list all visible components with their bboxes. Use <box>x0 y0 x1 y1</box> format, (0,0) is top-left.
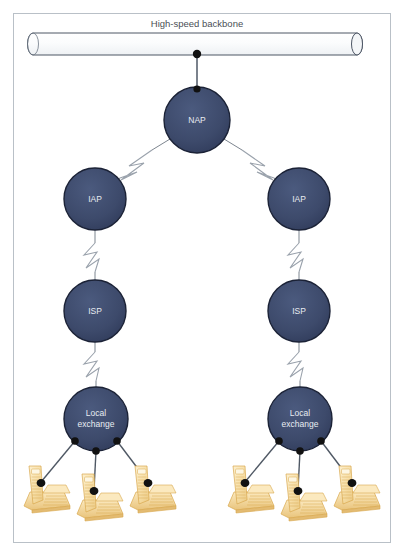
dot-nap-top <box>193 85 200 92</box>
node-nap[interactable]: NAP <box>164 87 230 153</box>
node-iap-right[interactable]: IAP <box>268 168 330 230</box>
node-local-exchange-left-label-line2: exchange <box>78 419 115 429</box>
node-isp-right-label: ISP <box>292 306 306 316</box>
phone-right-1 <box>228 466 274 513</box>
node-local-exchange-right-label-line2: exchange <box>282 419 319 429</box>
dot-phone-left-3 <box>144 479 153 487</box>
backbone-title: High-speed backbone <box>151 18 243 29</box>
dot-lex-left-b <box>92 447 100 455</box>
dot-phone-right-2 <box>294 487 303 495</box>
network-topology-svg: NAP IAP IAP ISP ISP Local exchange Local… <box>0 0 406 554</box>
dot-lex-left-c <box>113 437 121 445</box>
dot-lex-right-b <box>296 447 304 455</box>
node-iap-left-label: IAP <box>88 194 102 204</box>
node-iap-right-label: IAP <box>292 194 306 204</box>
node-local-exchange-left-label-line1: Local <box>86 408 106 418</box>
dot-lex-right-c <box>317 437 325 445</box>
phone-right-3 <box>334 466 380 513</box>
dot-phone-left-2 <box>90 487 99 495</box>
dot-backbone-tap <box>193 50 201 58</box>
dot-lex-right-a <box>275 437 283 445</box>
node-nap-label: NAP <box>188 115 206 125</box>
dot-phone-right-1 <box>241 479 250 487</box>
node-isp-right[interactable]: ISP <box>268 280 330 342</box>
phone-left-2 <box>77 474 123 521</box>
dot-phone-left-1 <box>37 479 46 487</box>
link-iap-isp-left <box>84 230 99 280</box>
link-isp-localexchange-right <box>288 342 303 388</box>
node-isp-left-label: ISP <box>88 306 102 316</box>
link-isp-localexchange-left <box>84 342 99 388</box>
phone-left-3 <box>130 466 176 513</box>
phone-left-1 <box>24 466 70 513</box>
link-iap-isp-right <box>288 230 303 280</box>
phone-right-2 <box>281 474 327 521</box>
dot-lex-left-a <box>71 437 79 445</box>
diagram-canvas: NAP IAP IAP ISP ISP Local exchange Local… <box>0 0 406 554</box>
node-local-exchange-right-label-line1: Local <box>290 408 310 418</box>
node-iap-left[interactable]: IAP <box>64 168 126 230</box>
node-isp-left[interactable]: ISP <box>64 280 126 342</box>
dot-phone-right-3 <box>348 479 357 487</box>
